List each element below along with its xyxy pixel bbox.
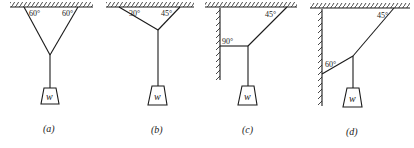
angle-label: 60° [325, 60, 336, 69]
caption: (d) [346, 126, 358, 138]
angle-label: 45° [161, 9, 172, 18]
weight-label: w [349, 93, 356, 104]
panel-a: 60° 60° w (a) [10, 2, 93, 135]
ceiling-hatch [10, 2, 93, 7]
ceiling-hatch [106, 2, 194, 7]
panel-c: 45° 90° w (c) [205, 2, 297, 136]
angle-label: 90° [222, 37, 233, 46]
wall-hatch [318, 11, 322, 105]
caption: (a) [43, 123, 55, 135]
panel-b: 30° 45° w (b) [106, 2, 194, 136]
weight-label: w [244, 91, 251, 102]
ceiling-hatch [205, 2, 297, 7]
angle-label: 45° [265, 10, 276, 19]
angle-label: 30° [129, 9, 140, 18]
wall-hatch [216, 10, 220, 80]
angle-label: 60° [29, 9, 40, 18]
weight-label: w [46, 91, 53, 102]
angle-label: 60° [62, 9, 73, 18]
weight-label: w [154, 91, 161, 102]
caption: (c) [242, 124, 254, 136]
angle-label: 45° [377, 11, 388, 20]
panel-d: 45° 60° w (d) [310, 3, 410, 138]
ceiling-hatch [310, 3, 410, 8]
statics-diagram: 60° 60° w (a) 30° 45° w (b) [0, 0, 414, 148]
caption: (b) [151, 124, 163, 136]
